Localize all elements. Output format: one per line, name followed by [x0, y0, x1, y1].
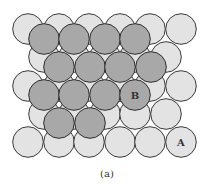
- layer-b-sphere: [29, 24, 60, 55]
- figure-caption: (a): [100, 168, 114, 179]
- layer-a-sphere: [151, 99, 182, 130]
- layer-a-sphere: [135, 127, 166, 158]
- layer-b-sphere: [59, 80, 90, 111]
- sphere-label-a: A: [176, 137, 185, 148]
- close-packed-layers-diagram: BA (a): [0, 0, 215, 184]
- layer-b-sphere: [29, 80, 60, 111]
- layer-b-sphere: [75, 52, 106, 83]
- sphere-label-b: B: [131, 90, 139, 101]
- layer-b-sphere: [90, 80, 121, 111]
- layer-b-sphere: [90, 24, 121, 55]
- layer-b-sphere: [136, 52, 167, 83]
- layer-b-sphere: [105, 52, 136, 83]
- layer-b-sphere: [44, 108, 75, 139]
- layer-a-sphere: [105, 127, 136, 158]
- layer-b-sphere: [120, 24, 151, 55]
- layer-a-sphere: [13, 127, 44, 158]
- layer-b-sphere: [75, 108, 106, 139]
- layer-b-sphere: [44, 52, 75, 83]
- layer-b-sphere: [59, 24, 90, 55]
- layer-a-sphere: [166, 71, 197, 102]
- layer-a-sphere: [166, 14, 197, 45]
